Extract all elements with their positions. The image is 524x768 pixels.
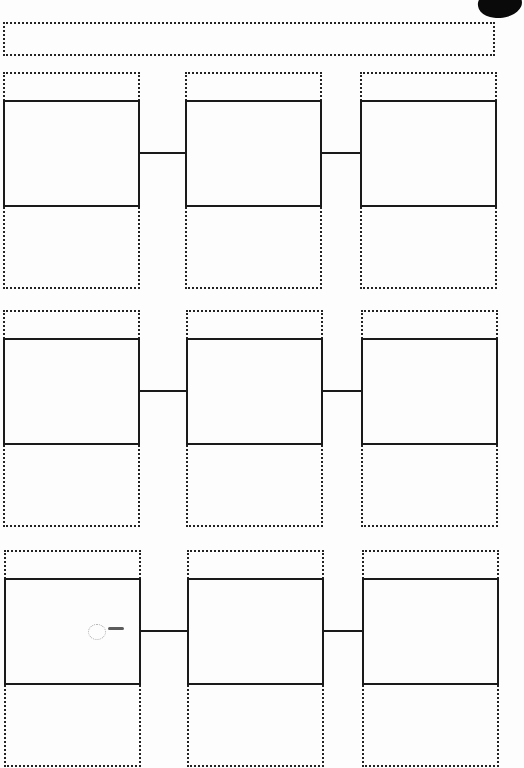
panel-box-r3c3[interactable] [362, 578, 499, 685]
panel-box-r3c2[interactable] [187, 578, 324, 685]
panel-box-r1c2[interactable] [185, 100, 322, 207]
connector-r2-1-2 [140, 390, 186, 392]
panel-box-r2c2[interactable] [186, 338, 323, 445]
panel-box-r3c1[interactable] [4, 578, 141, 685]
connector-r1-1-2 [140, 152, 186, 154]
panel-box-r2c1[interactable] [3, 338, 140, 445]
connector-r3-1-2 [141, 630, 187, 632]
panel-box-r2c3[interactable] [361, 338, 498, 445]
panel-box-r1c1[interactable] [3, 100, 140, 207]
title-field[interactable] [3, 22, 495, 56]
connector-r2-2-3 [322, 390, 362, 392]
panel-box-r1c3[interactable] [360, 100, 497, 207]
connector-r3-2-3 [323, 630, 363, 632]
connector-r1-2-3 [321, 152, 362, 154]
ink-blot [476, 0, 523, 21]
scan-speckle [88, 624, 106, 640]
pencil-smudge [108, 627, 124, 630]
